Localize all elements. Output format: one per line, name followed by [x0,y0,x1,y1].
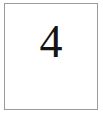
page-root: 4 [0,0,103,121]
bordered-page-panel: 4 [4,3,98,110]
page-number-4: 4 [5,19,97,65]
